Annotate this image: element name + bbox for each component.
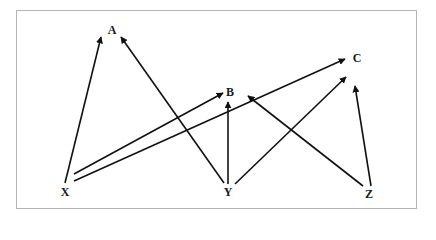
node-c-label: C — [353, 52, 362, 64]
edge-z-to-c — [355, 86, 371, 186]
edge-y-to-a — [121, 37, 224, 183]
node-b-label: B — [226, 86, 234, 98]
edge-z-to-b — [248, 96, 363, 186]
edge-x-to-b — [74, 93, 223, 174]
node-x-label: X — [61, 186, 70, 198]
edge-x-to-a — [65, 37, 101, 183]
edge-y-to-c — [235, 77, 346, 184]
node-a-label: A — [108, 24, 117, 36]
node-z-label: Z — [365, 188, 373, 200]
node-y-label: Y — [224, 186, 233, 198]
